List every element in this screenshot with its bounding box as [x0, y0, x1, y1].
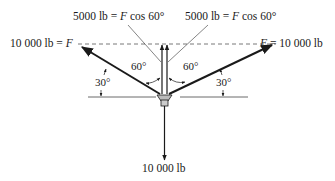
label-angle-right-30: 30° [216, 77, 231, 88]
force-diagram: 5000 lb = F cos 60° 5000 lb = F cos 60° … [0, 0, 335, 181]
label-top-right: 5000 lb = F cos 60° [185, 11, 276, 23]
label-bottom-force: 10 000 lb [142, 163, 185, 175]
angle-arrow-left-30-top [104, 69, 106, 75]
angle-arc-left-60 [146, 78, 160, 83]
label-right-force: F = 10 000 lb [260, 38, 323, 50]
label-left-force: 10 000 lb = F [10, 38, 73, 50]
force-diagram-drawing [0, 0, 335, 181]
leader-line-right [168, 25, 208, 62]
label-top-left: 5000 lb = F cos 60° [73, 11, 164, 23]
angle-arc-right-60 [169, 78, 185, 83]
label-angle-left-30: 30° [95, 77, 110, 88]
joint-node [157, 95, 172, 106]
label-angle-right-60: 60° [183, 61, 198, 72]
left-force-arrow [82, 47, 160, 94]
label-angle-left-60: 60° [131, 61, 146, 72]
leader-line-left [128, 25, 161, 62]
